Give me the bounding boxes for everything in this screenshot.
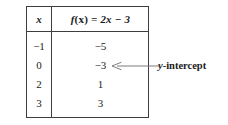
value-table: x f(x) = 2x − 3 −1 0 2 3 −5 −3 1 3 — [26, 6, 149, 118]
table-cell-x: 0 — [27, 56, 51, 75]
column-values-x: −1 0 2 3 — [27, 32, 51, 117]
column-header-fx: f(x) = 2x − 3 — [52, 7, 149, 32]
y-intercept-label: y-intercept — [158, 60, 206, 72]
column-header-x: x — [27, 7, 51, 32]
table-cell-x: −1 — [27, 37, 51, 56]
column-header-fx-rest: = 2x − 3 — [88, 13, 130, 25]
function-table-figure: x f(x) = 2x − 3 −1 0 2 3 −5 −3 1 3 y-int… — [0, 0, 228, 125]
table-cell-fx: 1 — [52, 75, 149, 94]
column-header-fx-arg: (x) — [75, 13, 88, 25]
table-cell-fx: −3 — [52, 56, 149, 75]
table-cell-x: 3 — [27, 94, 51, 113]
table-cell-x: 2 — [27, 75, 51, 94]
table-cell-fx: 3 — [52, 94, 149, 113]
y-intercept-label-rest: -intercept — [163, 60, 207, 71]
table-cell-fx: −5 — [52, 37, 149, 56]
column-values-fx: −5 −3 1 3 — [52, 32, 149, 117]
